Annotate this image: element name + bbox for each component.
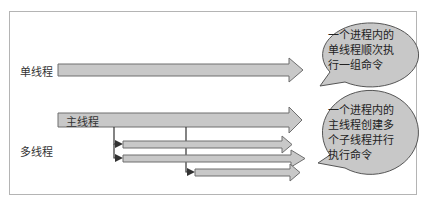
spawn-arrowhead-1	[115, 140, 123, 148]
multi-thread-label: 多线程	[20, 143, 53, 159]
multi-thread-description: 一个进程内的 主线程创建多 个子线程并行 执行命令	[328, 103, 394, 163]
bubble-line: 执行命令	[328, 148, 394, 163]
bubble-line: 个子线程并行	[328, 133, 394, 148]
single-thread-description: 一个进程内的 单线程顺次执 行一组命令	[328, 28, 394, 73]
child-thread-arrow-3	[195, 164, 300, 181]
bubble-line: 一个进程内的	[328, 103, 394, 118]
single-thread-label: 单线程	[20, 63, 53, 79]
bubble-line: 行一组命令	[328, 58, 394, 73]
child-thread-arrow-2	[123, 150, 305, 167]
bubble-line: 单线程顺次执	[328, 43, 394, 58]
spawn-arrowhead-3	[187, 168, 195, 176]
child-thread-arrow-1	[123, 136, 292, 153]
spawn-arrowhead-2	[115, 154, 123, 162]
single-thread-arrow	[58, 58, 303, 82]
main-thread-label: 主线程	[66, 113, 99, 129]
bubble-line: 主线程创建多	[328, 118, 394, 133]
bubble-line: 一个进程内的	[328, 28, 394, 43]
spawn-connector-3	[186, 127, 193, 172]
